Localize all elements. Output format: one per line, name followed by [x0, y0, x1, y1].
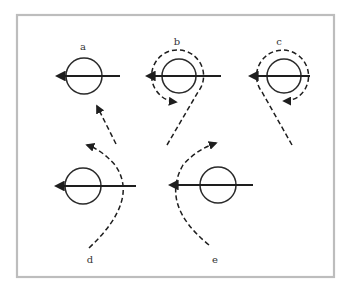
trajectory-dashed-curve-icon	[176, 143, 216, 245]
panel-c: c	[250, 36, 310, 145]
orbit-diagram: a b c d e	[0, 0, 351, 286]
trajectory-dashed-arrow-icon	[97, 106, 116, 144]
panel-e: e	[170, 143, 253, 265]
figure-frame	[17, 15, 334, 277]
panel-a: a	[57, 41, 120, 144]
panel-label-e: e	[212, 254, 218, 265]
panel-label-c: c	[276, 36, 282, 47]
panel-label-b: b	[174, 36, 180, 47]
panel-label-a: a	[80, 41, 86, 52]
trajectory-dashed-curve-icon	[87, 145, 123, 248]
panel-b: b	[147, 36, 221, 145]
panel-d: d	[56, 145, 136, 265]
trajectory-dashed-orbit-icon	[152, 50, 204, 145]
trajectory-dashed-orbit-icon	[257, 50, 309, 145]
panel-label-d: d	[87, 254, 94, 265]
